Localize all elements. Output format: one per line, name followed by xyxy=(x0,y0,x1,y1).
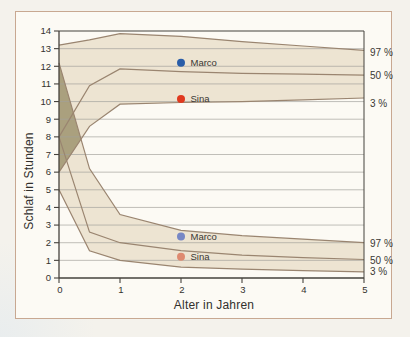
y-tick-label: 11 xyxy=(41,78,51,89)
x-tick-label: 1 xyxy=(118,284,123,295)
data-point-sina xyxy=(177,253,185,261)
x-tick-label: 2 xyxy=(179,284,184,295)
y-tick-label: 10 xyxy=(40,96,51,107)
y-tick-label: 7 xyxy=(46,149,51,160)
x-tick-label: 5 xyxy=(362,284,367,295)
data-point-label: Sina xyxy=(191,93,211,104)
x-tick-label: 4 xyxy=(301,284,306,295)
percent-label: 50 % xyxy=(370,255,393,266)
y-tick-label: 0 xyxy=(46,272,51,283)
y-tick-label: 5 xyxy=(46,184,51,195)
data-point-marco xyxy=(177,59,185,67)
x-tick-label: 3 xyxy=(240,284,245,295)
y-tick-label: 2 xyxy=(46,237,51,248)
y-tick-label: 13 xyxy=(40,43,51,54)
y-tick-label: 1 xyxy=(46,255,51,266)
data-point-marco xyxy=(177,233,185,241)
percent-label: 97 % xyxy=(370,238,393,249)
percent-label: 3 % xyxy=(370,98,387,109)
percent-label: 50 % xyxy=(370,70,393,81)
x-axis-title: Alter in Jahren xyxy=(174,298,254,312)
y-tick-label: 6 xyxy=(46,166,51,177)
y-axis-title: Schlaf in Stunden xyxy=(22,132,36,229)
y-tick-label: 4 xyxy=(46,202,51,213)
band-area-upper-band xyxy=(59,34,364,173)
y-tick-label: 14 xyxy=(40,25,51,36)
figure: 0123456789101112131401234597 %50 %3 %97 … xyxy=(0,0,410,337)
y-tick-label: 9 xyxy=(46,114,51,125)
data-point-sina xyxy=(177,95,185,103)
percent-label: 3 % xyxy=(370,266,387,277)
y-tick-label: 8 xyxy=(46,131,51,142)
data-point-label: Marco xyxy=(191,57,217,68)
percent-label: 97 % xyxy=(370,47,393,58)
y-tick-label: 3 xyxy=(46,219,51,230)
x-tick-label: 0 xyxy=(57,284,62,295)
chart-canvas: 0123456789101112131401234597 %50 %3 %97 … xyxy=(0,0,410,337)
y-tick-label: 12 xyxy=(40,61,51,72)
data-point-label: Sina xyxy=(191,251,211,262)
data-point-label: Marco xyxy=(191,231,217,242)
